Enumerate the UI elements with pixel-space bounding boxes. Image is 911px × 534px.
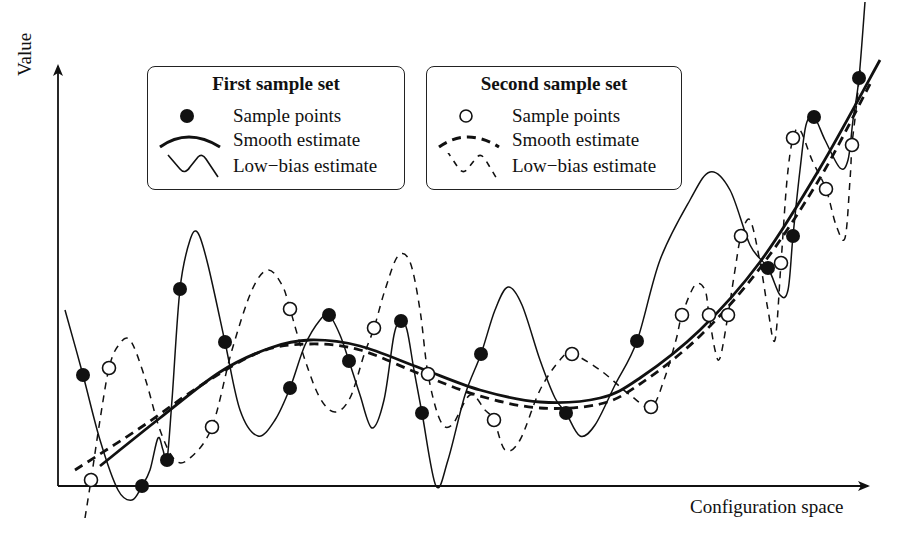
thin-dashed-wiggle-icon [431, 153, 507, 179]
filled-sample-point [135, 479, 149, 493]
filled-sample-point [342, 354, 356, 368]
filled-sample-point [852, 71, 866, 85]
open-sample-point [206, 421, 219, 434]
open-sample-point [422, 368, 435, 381]
open-circle-icon [431, 103, 507, 129]
filled-sample-point [283, 381, 297, 395]
filled-sample-point [322, 308, 336, 322]
open-sample-point [103, 362, 116, 375]
thick-dashed-curve-icon [431, 127, 507, 153]
legend-label: Sample points [512, 105, 620, 127]
legend-label: Low−bias estimate [233, 155, 377, 177]
legend-item-low-bias-estimate: Low−bias estimate [148, 153, 404, 177]
y-axis-label: Value [14, 33, 36, 76]
filled-sample-point [173, 282, 187, 296]
filled-sample-point [394, 314, 408, 328]
legend-label: Smooth estimate [512, 129, 639, 151]
legend-label: Low−bias estimate [512, 155, 656, 177]
filled-sample-point [218, 335, 232, 349]
open-sample-point [735, 230, 748, 243]
open-sample-point [787, 132, 800, 145]
filled-sample-point [76, 368, 90, 382]
open-sample-point [722, 309, 735, 322]
open-sample-point [676, 309, 689, 322]
filled-sample-point [415, 406, 429, 420]
filled-sample-point [761, 261, 775, 275]
open-sample-point [846, 139, 859, 152]
legend-item-smooth-estimate: Smooth estimate [427, 127, 681, 151]
legend-first-sample-set: First sample set Sample points Smooth es… [147, 66, 405, 190]
filled-sample-point [559, 406, 573, 420]
figure: First sample set Sample points Smooth es… [0, 0, 911, 534]
filled-sample-point [630, 334, 644, 348]
open-sample-point [368, 322, 381, 335]
thin-solid-wiggle-icon [152, 153, 228, 179]
legend-second-sample-set: Second sample set Sample points Smooth e… [426, 66, 682, 190]
legend-item-smooth-estimate: Smooth estimate [148, 127, 404, 151]
open-sample-point [645, 401, 658, 414]
filled-sample-point [807, 110, 821, 124]
legend-title: Second sample set [427, 73, 681, 95]
filled-sample-point [160, 453, 174, 467]
open-sample-point [566, 348, 579, 361]
open-sample-point [488, 414, 501, 427]
open-sample-point [85, 474, 98, 487]
open-sample-point [775, 257, 788, 270]
legend-item-sample-points: Sample points [427, 103, 681, 127]
thick-solid-curve-icon [152, 127, 228, 153]
legend-label: Smooth estimate [233, 129, 360, 151]
legend-item-low-bias-estimate: Low−bias estimate [427, 153, 681, 177]
open-sample-point [703, 309, 716, 322]
filled-sample-point [786, 229, 800, 243]
x-axis-label: Configuration space [690, 496, 844, 518]
legend-title: First sample set [148, 73, 404, 95]
legend-item-sample-points: Sample points [148, 103, 404, 127]
open-sample-point [820, 183, 833, 196]
filled-sample-point [474, 347, 488, 361]
filled-circle-icon [152, 103, 228, 129]
open-sample-point [284, 303, 297, 316]
legend-label: Sample points [233, 105, 341, 127]
